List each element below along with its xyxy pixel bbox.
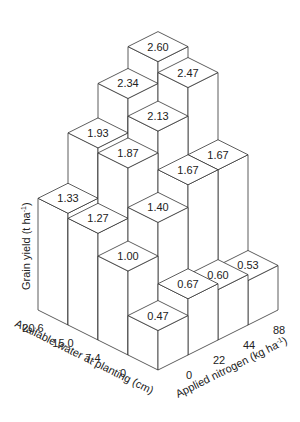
bar-chart-3d: 2.602.342.471.932.131.671.331.871.670.53… — [0, 0, 300, 422]
bar-value-label: 1.00 — [117, 250, 138, 262]
bar-value-label: 1.93 — [87, 127, 108, 139]
bar-value-label: 1.87 — [117, 147, 138, 159]
bar-value-label: 2.13 — [147, 110, 168, 122]
bar-value-label: 0.67 — [177, 278, 198, 290]
bar-value-label: 1.67 — [177, 164, 198, 176]
bar-value-label: 0.47 — [147, 310, 168, 322]
bar-left-face — [98, 256, 128, 355]
bar-value-label: 2.60 — [147, 41, 168, 53]
bar-left-face — [38, 198, 68, 325]
bar-left-face — [68, 218, 98, 340]
bar-value-label: 0.60 — [207, 269, 228, 281]
bar-value-label: 1.40 — [147, 201, 168, 213]
bar-value-label: 0.53 — [237, 259, 258, 271]
nitrogen-tick-label: 0 — [186, 369, 192, 381]
bar-value-label: 1.33 — [57, 192, 78, 204]
bar-value-label: 1.27 — [87, 212, 108, 224]
z-axis-label: Grain yield (t ha-1) — [20, 202, 32, 290]
bar-value-label: 2.34 — [117, 77, 138, 89]
bar-value-label: 2.47 — [177, 67, 198, 79]
bar-value-label: 1.67 — [207, 149, 228, 161]
